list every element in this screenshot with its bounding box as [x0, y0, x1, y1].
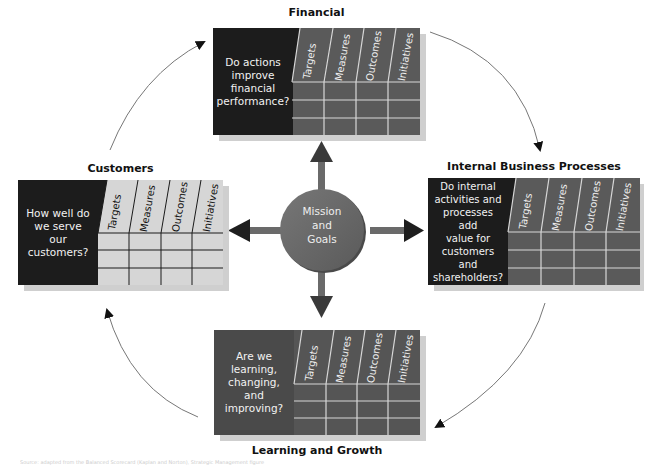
cycle-arrow-internal-to-learning — [436, 303, 545, 427]
center-label-line: Goals — [286, 232, 358, 246]
internal-question-line: activities and — [429, 193, 507, 206]
customers-question-line: we serve — [22, 220, 94, 233]
cycle-arrow-financial-to-internal — [430, 32, 540, 150]
spoke-arrow-right — [370, 219, 424, 242]
internal-question-line: and — [429, 258, 507, 271]
center-label-line: and — [286, 218, 358, 232]
learning-question: Are we learning, changing, and improving… — [214, 330, 294, 435]
learning-question-line: and — [221, 389, 287, 402]
center-label-line: Mission — [286, 204, 358, 218]
customers-question-line: our — [22, 233, 94, 246]
internal-title: Internal Business Processes — [428, 160, 640, 173]
customers-question: How well do we serve our customers? — [18, 180, 98, 285]
internal-question-line: value for — [429, 232, 507, 245]
learning-title: Learning and Growth — [214, 444, 420, 457]
learning-question-line: learning, — [221, 363, 287, 376]
spoke-arrow-left — [228, 219, 286, 242]
spoke-arrow-down — [310, 268, 333, 318]
mission-goals-label: Mission and Goals — [286, 204, 358, 246]
internal-question-line: Do internal — [429, 180, 507, 193]
internal-question-line: processes add — [429, 206, 507, 232]
customers-question-line: How well do — [22, 207, 94, 220]
source-footer: Source: adapted from the Balanced Scorec… — [20, 459, 635, 465]
learning-question-line: improving? — [221, 402, 287, 415]
internal-question-line: shareholders? — [429, 271, 507, 284]
financial-question-line: Do actions — [213, 56, 294, 69]
cycle-arrow-learning-to-customers — [107, 310, 198, 417]
learning-question-line: changing, — [221, 376, 287, 389]
financial-question-line: financial — [213, 82, 294, 95]
internal-question: Do internal activities and processes add… — [428, 178, 508, 285]
financial-title: Financial — [213, 6, 420, 19]
cycle-arrow-customers-to-financial — [110, 42, 204, 150]
customers-question-line: customers? — [22, 246, 94, 259]
spoke-arrow-up — [310, 141, 333, 192]
financial-question-line: improve — [213, 69, 294, 82]
financial-question-line: performance? — [213, 95, 294, 108]
learning-question-line: Are we — [221, 350, 287, 363]
customers-title: Customers — [18, 162, 223, 175]
financial-question: Do actions improve financial performance… — [213, 28, 293, 135]
internal-question-line: customers — [429, 245, 507, 258]
